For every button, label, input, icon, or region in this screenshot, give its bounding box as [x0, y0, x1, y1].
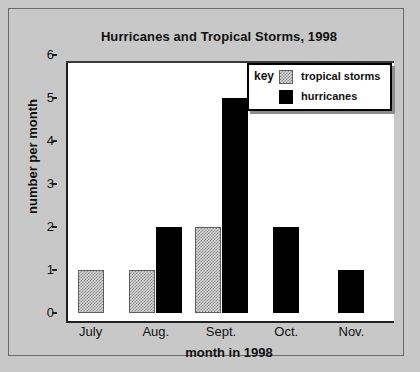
- bar-hurricanes: [222, 98, 248, 313]
- y-tick-mark: [52, 226, 57, 228]
- bar-hurricanes: [273, 227, 299, 313]
- legend-label: tropical storms: [301, 70, 380, 82]
- bar-hurricanes: [338, 270, 364, 313]
- y-tick-label: 6: [28, 47, 54, 62]
- x-axis-label: month in 1998: [66, 345, 392, 360]
- x-tick-label: July: [56, 324, 126, 339]
- chart-frame: Hurricanes and Tropical Storms, 1998 num…: [8, 8, 404, 356]
- x-tick-label: Oct.: [251, 324, 321, 339]
- chart-legend: key tropical stormshurricanes: [247, 63, 392, 111]
- x-tick-label: Sept.: [186, 324, 256, 339]
- y-tick-mark: [52, 97, 57, 99]
- x-tick-label: Nov.: [316, 324, 386, 339]
- bar-tropical-storms: [129, 270, 155, 313]
- y-tick-mark: [52, 140, 57, 142]
- bar-tropical-storms: [78, 270, 104, 313]
- y-tick-label: 5: [28, 90, 54, 105]
- y-tick-label: 4: [28, 133, 54, 148]
- legend-title: key: [254, 69, 274, 83]
- y-axis: number per month 0123456: [9, 9, 66, 372]
- legend-swatch-hurricane: [279, 90, 293, 104]
- bar-hurricanes: [156, 227, 182, 313]
- y-tick-label: 0: [28, 305, 54, 320]
- y-tick-label: 3: [28, 176, 54, 191]
- bar-tropical-storms: [195, 227, 221, 313]
- legend-label: hurricanes: [301, 90, 357, 102]
- x-tick-label: Aug.: [121, 324, 191, 339]
- y-tick-mark: [52, 183, 57, 185]
- y-tick-label: 1: [28, 262, 54, 277]
- chart-title: Hurricanes and Tropical Storms, 1998: [9, 29, 420, 44]
- y-tick-mark: [52, 312, 57, 314]
- y-tick-mark: [52, 269, 57, 271]
- y-tick-mark: [52, 54, 57, 56]
- y-tick-label: 2: [28, 219, 54, 234]
- legend-swatch-tropical: [279, 70, 293, 84]
